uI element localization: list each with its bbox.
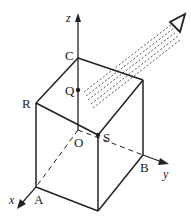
z-axis bbox=[75, 13, 81, 130]
point-q-dot bbox=[76, 88, 80, 92]
point-b-label: B bbox=[140, 160, 149, 175]
point-o-label: O bbox=[74, 135, 83, 150]
light-beam bbox=[84, 24, 180, 108]
edge-a-bottom bbox=[36, 187, 98, 211]
hidden-edge-o-a bbox=[36, 130, 78, 187]
x-axis-label: x bbox=[8, 193, 15, 207]
hidden-edge-o-b bbox=[78, 130, 143, 155]
z-axis-arrow-icon bbox=[75, 13, 81, 22]
z-axis-label: z bbox=[65, 11, 71, 25]
point-q-label: Q bbox=[65, 83, 75, 98]
edge-bottom-b bbox=[98, 155, 143, 211]
cube-diagram: z y x C Q R O S B A bbox=[0, 0, 191, 224]
point-s-dot bbox=[96, 133, 100, 137]
y-axis-arrow-icon bbox=[158, 158, 169, 165]
point-s-label: S bbox=[103, 130, 110, 145]
point-c-label: C bbox=[65, 48, 74, 63]
edge-r-s bbox=[36, 103, 98, 135]
y-axis-label: y bbox=[162, 167, 169, 181]
edge-top-back-s bbox=[98, 80, 143, 135]
point-r-label: R bbox=[22, 96, 31, 111]
edge-c-top-back bbox=[78, 58, 143, 80]
point-a-label: A bbox=[34, 192, 44, 207]
hidden-edges bbox=[36, 130, 143, 187]
